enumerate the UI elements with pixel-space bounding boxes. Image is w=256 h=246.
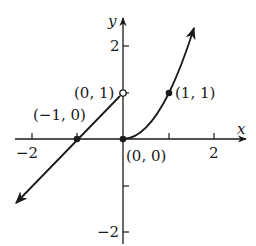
point-neg1-0	[74, 136, 81, 143]
x-axis-label: x	[237, 120, 246, 138]
xtick-label-2: 2	[209, 144, 219, 162]
point-0-1-open	[120, 90, 126, 96]
label-point-0-0: (0, 0)	[126, 147, 166, 165]
y-axis-label: y	[107, 12, 117, 30]
label-point-neg1-0: (−1, 0)	[33, 106, 86, 124]
label-point-1-1: (1, 1)	[175, 84, 215, 102]
ytick-label-neg2: −2	[97, 223, 119, 241]
piecewise-graph: x y −2 2 2 −2 (−1, 0) (0, 1) (0, 0) (1, …	[0, 0, 256, 246]
label-point-0-1: (0, 1)	[74, 84, 114, 102]
point-1-1	[166, 90, 173, 97]
ytick-label-2: 2	[110, 37, 120, 55]
xtick-label-neg2: −2	[16, 144, 38, 162]
point-0-0	[120, 136, 127, 143]
